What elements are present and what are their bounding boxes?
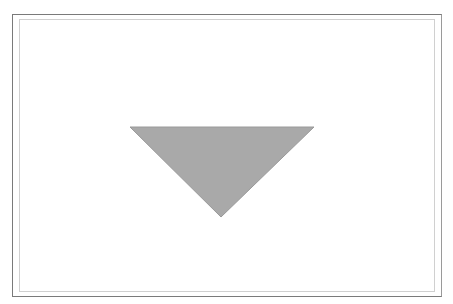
inverted-triangle-shape bbox=[130, 127, 314, 217]
diagram-canvas bbox=[0, 0, 453, 304]
